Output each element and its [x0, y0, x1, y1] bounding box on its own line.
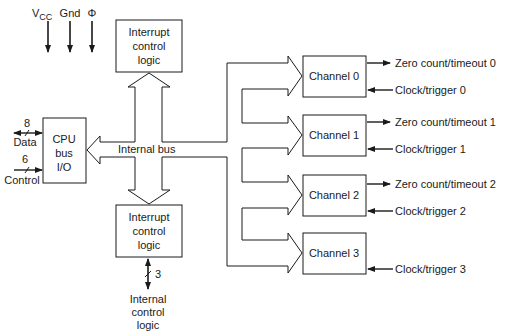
vcc-label: VCC [32, 7, 53, 22]
phi-label: Φ [88, 7, 97, 19]
data-label: Data [13, 136, 37, 148]
data-width-label: 8 [24, 117, 30, 129]
interrupt-bottom-line-2: control [132, 225, 165, 237]
internal-label-2: control [131, 306, 164, 318]
channel-2: Channel 2 Zero count/timeout 2 Clock/tri… [303, 175, 496, 217]
channel-2-output-label: Zero count/timeout 2 [395, 178, 496, 190]
channel-3: Channel 3 Clock/trigger 3 [303, 233, 466, 275]
channel-1-label: Channel 1 [309, 129, 359, 141]
interrupt-bottom-line-1: Interrupt [129, 211, 170, 223]
internal-label-1: Internal [130, 293, 167, 305]
gnd-label: Gnd [60, 7, 81, 19]
internal-control-link: 3 Internal control logic [130, 259, 167, 331]
channel-0-output-label: Zero count/timeout 0 [395, 57, 496, 69]
channel-1-input-label: Clock/trigger 1 [395, 143, 466, 155]
channel-0-input-label: Clock/trigger 0 [395, 84, 466, 96]
channel-2-input-label: Clock/trigger 2 [395, 205, 466, 217]
channel-1: Channel 1 Zero count/timeout 1 Clock/tri… [303, 115, 496, 156]
channel-0-label: Channel 0 [309, 70, 359, 82]
interrupt-bottom-line-3: logic [138, 239, 161, 251]
cpu-external-lines: 8 Data 6 Control [4, 117, 42, 186]
control-width-label: 6 [22, 153, 28, 165]
channel-3-input-label: Clock/trigger 3 [395, 263, 466, 275]
channel-2-label: Channel 2 [309, 189, 359, 201]
control-label: Control [4, 174, 39, 186]
interrupt-top-line-1: Interrupt [129, 26, 170, 38]
cpu-label: CPU [52, 133, 75, 145]
interrupt-top-line-2: control [132, 40, 165, 52]
channel-1-output-label: Zero count/timeout 1 [395, 116, 496, 128]
channel-3-label: Channel 3 [309, 247, 359, 259]
bus-width-label: 3 [155, 268, 161, 280]
block-diagram: VCC Gnd Φ CPU bus I/O 8 Data 6 Control I… [0, 0, 510, 335]
power-inputs: VCC Gnd Φ [32, 7, 97, 52]
interrupt-control-top-block: Interrupt control logic [116, 20, 182, 72]
internal-label-3: logic [137, 319, 160, 331]
bus-label: bus [55, 147, 73, 159]
interrupt-control-bottom-block: Interrupt control logic [116, 205, 182, 257]
channel-0: Channel 0 Zero count/timeout 0 Clock/tri… [303, 56, 496, 97]
io-label: I/O [57, 161, 72, 173]
interrupt-top-line-3: logic [138, 54, 161, 66]
cpu-bus-io-block: CPU bus I/O [43, 118, 86, 183]
internal-bus-label: Internal bus [118, 143, 176, 155]
